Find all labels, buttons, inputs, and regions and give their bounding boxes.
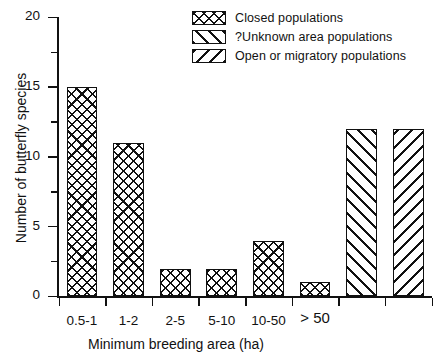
x-axis-tick — [105, 298, 107, 306]
y-axis-tick-major — [48, 296, 57, 298]
y-axis-tick-major — [48, 17, 57, 19]
y-axis-tick-label: 0 — [10, 287, 40, 302]
plot-area: 05101520 0.5-11-22-55-1010-50> 50 — [0, 0, 438, 361]
bar-chart: Closed populations ?Unknown area populat… — [0, 0, 438, 361]
y-axis-tick-minor — [51, 261, 57, 263]
bar — [393, 129, 424, 296]
x-axis-tick — [292, 298, 294, 306]
x-axis-tick — [432, 298, 434, 306]
y-axis-tick-minor — [51, 52, 57, 54]
x-axis-tick — [245, 298, 247, 306]
x-axis-tick — [152, 298, 154, 306]
bar — [253, 241, 284, 297]
bar — [160, 269, 191, 297]
bar — [346, 129, 377, 296]
y-axis-tick-major — [48, 156, 57, 158]
bar — [300, 282, 331, 296]
y-axis-tick-major — [48, 86, 57, 88]
x-axis-tick — [59, 298, 61, 306]
y-axis-tick-label: 20 — [10, 8, 40, 23]
y-axis-tick-major — [48, 226, 57, 228]
y-axis-title: Number of butterfly species — [13, 53, 29, 263]
x-axis-tick — [198, 298, 200, 306]
x-axis-title: Minimum breeding area (ha) — [57, 336, 295, 352]
y-axis-tick-minor — [51, 121, 57, 123]
bar — [67, 87, 98, 296]
bar — [206, 269, 237, 297]
y-axis-line — [57, 17, 59, 298]
x-axis-tick — [338, 298, 340, 306]
y-axis-tick-minor — [51, 191, 57, 193]
bar — [113, 143, 144, 296]
x-axis-tick — [385, 298, 387, 306]
x-axis-tick-label: > 50 — [281, 309, 350, 326]
